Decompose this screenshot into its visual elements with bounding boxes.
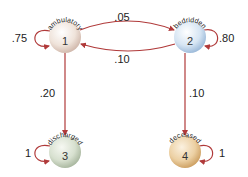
node-bedridden: bedridden 2 <box>172 16 208 53</box>
edge-1-2: .05 <box>80 11 174 30</box>
edge-label-2-4: .10 <box>189 87 204 99</box>
node-number-2: 2 <box>187 35 193 47</box>
self-loop-3: 1 <box>25 145 50 161</box>
edge-1-3: .20 <box>40 53 65 135</box>
edge-2-1: .10 <box>81 44 175 65</box>
node-number-3: 3 <box>62 150 68 162</box>
self-loop-2: .80 <box>204 30 234 47</box>
self-loop-label-4: 1 <box>219 147 225 159</box>
node-deceased: deceased 4 <box>167 131 202 168</box>
edge-2-4: .10 <box>185 53 204 135</box>
edge-label-2-1: .10 <box>114 53 129 65</box>
self-loop-label-2: .80 <box>219 32 234 44</box>
self-loop-label-3: 1 <box>25 147 31 159</box>
node-number-1: 1 <box>62 35 68 47</box>
node-ambulatory: ambulatory 1 <box>46 16 85 53</box>
self-loop-label-1: .75 <box>12 32 27 44</box>
node-discharged: discharged 3 <box>46 131 84 168</box>
node-number-4: 4 <box>182 150 188 162</box>
self-loop-1: .75 <box>12 30 50 46</box>
self-loop-4: 1 <box>199 145 225 161</box>
edge-label-1-3: .20 <box>40 87 55 99</box>
markov-diagram: .05 .10 .20 .10 .75 .80 1 1 ambulatory 1… <box>0 0 248 177</box>
edge-label-1-2: .05 <box>114 11 129 23</box>
